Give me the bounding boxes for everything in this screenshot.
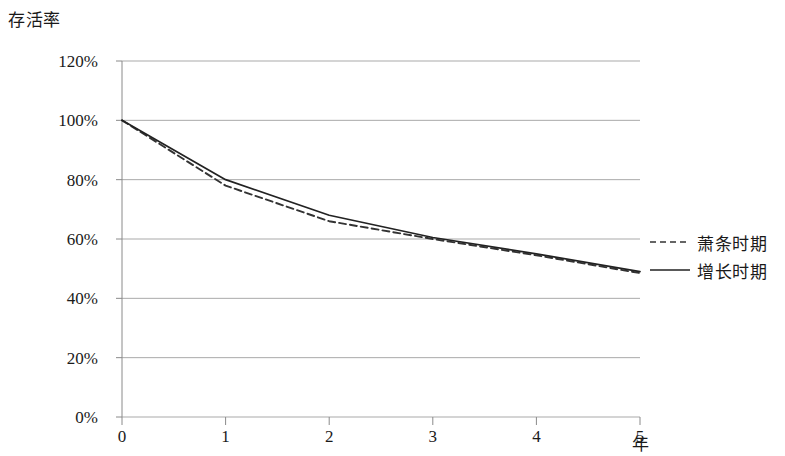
x-tick-label: 1	[221, 428, 230, 445]
x-axis-tick-marks	[122, 417, 640, 425]
legend-item-recession: 萧条时期	[648, 228, 783, 256]
x-tick-label: 2	[325, 428, 334, 445]
survival-rate-line-chart: 存活率 0%20%40%60%80%100%120% 012345 年 萧条时期…	[0, 0, 785, 456]
x-axis-title: 年	[632, 430, 649, 455]
series-line-1	[122, 120, 640, 271]
legend-label-growth: 增长时期	[692, 258, 767, 283]
y-axis-tick-marks	[116, 61, 122, 417]
x-tick-label: 4	[532, 428, 541, 445]
x-tick-label: 3	[429, 428, 438, 445]
legend-label-recession: 萧条时期	[692, 230, 767, 255]
series-line-0	[122, 120, 640, 273]
x-tick-label: 0	[118, 428, 127, 445]
legend-key-solid-icon	[648, 263, 692, 277]
legend-item-growth: 增长时期	[648, 256, 783, 284]
legend-key-dashed-icon	[648, 235, 692, 249]
chart-legend: 萧条时期 增长时期	[648, 228, 783, 284]
data-series-lines	[122, 120, 640, 273]
gridlines	[122, 61, 640, 417]
